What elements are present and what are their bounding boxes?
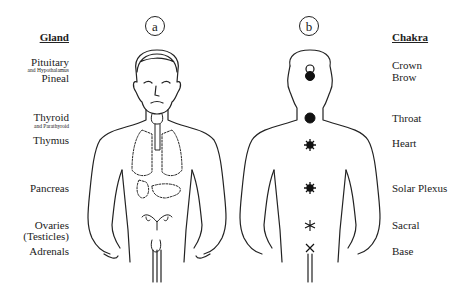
chakra-symbols [304, 65, 316, 252]
adrenals [151, 240, 161, 252]
gland-outlines [132, 130, 182, 198]
sacral-symbol [305, 220, 315, 231]
brow-symbol [306, 72, 315, 81]
base-symbol [306, 244, 314, 252]
thyroid-gland [151, 114, 163, 150]
solar-plexus-symbol [304, 182, 316, 194]
ovaries-uterus [142, 215, 172, 230]
front-body-figure [88, 50, 226, 282]
body-figures [0, 0, 463, 299]
throat-symbol [305, 113, 315, 123]
heart-symbol [304, 139, 316, 151]
